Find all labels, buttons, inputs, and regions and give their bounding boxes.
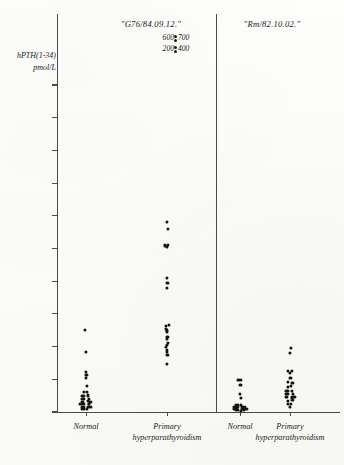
data-point [290, 402, 293, 405]
data-point [89, 405, 92, 408]
data-point [290, 389, 293, 392]
data-point [79, 403, 82, 406]
y-tick-100 [52, 84, 58, 85]
data-point [82, 398, 85, 401]
x-axis [57, 412, 340, 413]
data-point [284, 392, 287, 395]
data-point [289, 405, 292, 408]
x-tick-0 [86, 412, 87, 416]
offscale-marker-400 [174, 50, 177, 53]
data-point [286, 399, 289, 402]
data-point [167, 244, 170, 247]
data-point [286, 370, 289, 373]
data-point [232, 405, 235, 408]
data-point [82, 400, 85, 403]
data-point [291, 396, 294, 399]
data-point [286, 396, 289, 399]
x-axis-label-1-line2: hyperparathyroidism [112, 432, 222, 443]
data-point [240, 378, 243, 381]
data-point [234, 407, 237, 410]
x-axis-label-3-line2: hyperparathyroidism [235, 432, 344, 443]
data-point [232, 408, 235, 411]
data-point [164, 324, 167, 327]
offscale-row-1: 200400 [148, 44, 204, 54]
data-point [291, 399, 294, 402]
data-point [165, 327, 168, 330]
data-point [243, 408, 246, 411]
y-tick-60 [52, 215, 58, 216]
data-point [291, 381, 294, 384]
data-point [236, 403, 239, 406]
offscale-marker-700 [174, 39, 177, 42]
panel-title-2: "Rm/82.10.02." [228, 19, 316, 29]
data-point [285, 389, 288, 392]
data-point [165, 363, 168, 366]
y-tick-10 [52, 379, 58, 380]
data-point [81, 408, 84, 411]
offscale-annotation-group: 600700200400 [148, 33, 204, 57]
data-point [166, 227, 169, 230]
data-point [290, 385, 293, 388]
offscale-marker-200 [174, 46, 177, 49]
data-point [287, 385, 290, 388]
data-point [165, 330, 168, 333]
data-point [241, 408, 244, 411]
data-point [167, 324, 170, 327]
data-point [238, 392, 241, 395]
y-axis [57, 14, 58, 413]
panel-divider [216, 14, 217, 412]
data-point [80, 403, 83, 406]
data-point [236, 408, 239, 411]
data-point [87, 397, 90, 400]
x-axis-label-3-line1: Primary [235, 421, 344, 432]
data-point [84, 377, 87, 380]
y-tick-30 [52, 313, 58, 314]
data-point [236, 406, 239, 409]
data-point [87, 403, 90, 406]
data-point [235, 403, 238, 406]
x-tick-2 [240, 412, 241, 416]
y-tick-0 [52, 411, 58, 412]
data-point [83, 390, 86, 393]
data-point [85, 373, 88, 376]
data-point [286, 392, 289, 395]
figure-root: hPTH(1-34) pmol/L 0102030405060708090100… [0, 0, 344, 465]
data-point [165, 350, 168, 353]
data-point [165, 345, 168, 348]
data-point [85, 350, 88, 353]
x-tick-3 [290, 412, 291, 416]
y-tick-80 [52, 150, 58, 151]
data-point [288, 352, 291, 355]
y-tick-layer: 0102030405060708090100 [0, 0, 50, 465]
x-axis-label-3: Primaryhyperparathyroidism [235, 421, 344, 443]
data-point [85, 384, 88, 387]
data-point [289, 347, 292, 350]
data-point [80, 397, 83, 400]
data-point [87, 400, 90, 403]
data-point [165, 286, 168, 289]
data-point [166, 281, 169, 284]
y-tick-50 [52, 248, 58, 249]
panel-title-1: "G76/84.09.12." [105, 19, 197, 29]
data-point [287, 402, 290, 405]
offscale-label-400: 400 [178, 44, 189, 53]
data-point [165, 343, 168, 346]
data-point [86, 390, 89, 393]
data-point [241, 405, 244, 408]
x-tick-1 [167, 412, 168, 416]
data-point [239, 384, 242, 387]
data-point [289, 376, 292, 379]
offscale-marker-600 [174, 35, 177, 38]
data-point [288, 371, 291, 374]
data-point [240, 403, 243, 406]
data-point [86, 408, 89, 411]
data-point [84, 329, 87, 332]
data-point [166, 335, 169, 338]
data-point [166, 353, 169, 356]
data-point [166, 245, 169, 248]
data-point [80, 405, 83, 408]
data-point [234, 406, 237, 409]
y-tick-90 [52, 117, 58, 118]
data-point [290, 369, 293, 372]
data-point [84, 371, 87, 374]
